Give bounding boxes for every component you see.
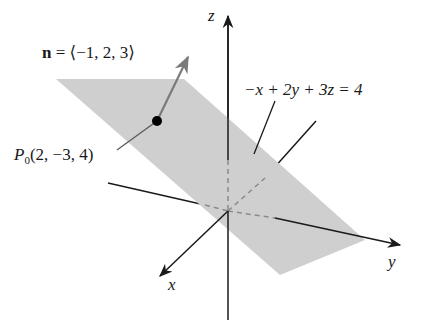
- equals-sign: =: [56, 43, 66, 62]
- normal-symbol: n: [42, 43, 51, 62]
- y-axis-label: y: [388, 253, 396, 270]
- equation-leader-line: [254, 101, 275, 154]
- plane: [56, 79, 365, 275]
- normal-components: ⟨−1, 2, 3⟩: [70, 43, 135, 62]
- normal-vector-label: n = ⟨−1, 2, 3⟩: [42, 44, 135, 61]
- plane-equation-label: −x + 2y + 3z = 4: [244, 81, 363, 98]
- x-axis-label: x: [168, 276, 176, 293]
- point-coordinates: (2, −3, 4): [30, 145, 93, 164]
- z-axis-label: z: [208, 7, 215, 24]
- point-name: P: [14, 145, 24, 164]
- point-label: P0(2, −3, 4): [14, 146, 93, 163]
- x-axis-positive: [160, 211, 228, 276]
- point-p0: [152, 116, 162, 126]
